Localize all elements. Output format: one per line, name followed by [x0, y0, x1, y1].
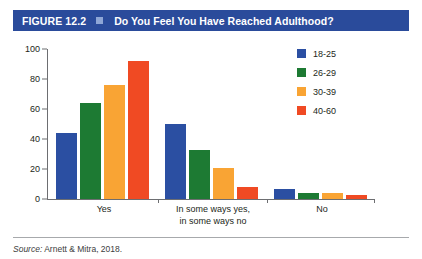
- x-axis-end-tick: [374, 199, 375, 203]
- bar-18-25-2: [165, 124, 186, 199]
- bar-18-25-3: [274, 189, 295, 200]
- bar-26-29-1: [80, 103, 101, 199]
- legend-swatch-icon: [297, 68, 306, 77]
- legend-label: 30-39: [313, 87, 336, 97]
- legend-swatch-icon: [297, 49, 306, 58]
- legend-item-26-29[interactable]: 26-29: [297, 63, 397, 82]
- legend-swatch-icon: [297, 87, 306, 96]
- y-axis-tick-label: 20: [14, 164, 40, 174]
- bar-30-39-2: [213, 168, 234, 200]
- figure-number: FIGURE 12.2: [22, 15, 86, 27]
- bar-30-39-3: [322, 193, 343, 199]
- bar-group: [165, 49, 261, 199]
- footer-divider: [13, 237, 409, 238]
- figure-title: Do You Feel You Have Reached Adulthood?: [114, 15, 334, 27]
- x-axis-group-tick: [158, 199, 159, 203]
- bar-26-29-2: [189, 150, 210, 200]
- y-axis-tick-label: 100: [14, 44, 40, 54]
- bar-40-60-3: [346, 195, 367, 200]
- y-axis-tick-labels: 020406080100: [14, 36, 40, 186]
- source-note: Source: Arnett & Mitra, 2018.: [13, 244, 122, 254]
- y-axis-tick-label: 60: [14, 104, 40, 114]
- figure-header-banner: FIGURE 12.2 Do You Feel You Have Reached…: [13, 10, 409, 31]
- legend-label: 18-25: [313, 49, 336, 59]
- y-axis-tick-label: 0: [14, 194, 40, 204]
- bar-group: [56, 49, 152, 199]
- legend-swatch-icon: [297, 106, 306, 115]
- bar-40-60-1: [128, 61, 149, 199]
- x-axis-category-label: No: [254, 204, 390, 216]
- legend-item-18-25[interactable]: 18-25: [297, 44, 397, 63]
- source-citation: Arnett & Mitra, 2018.: [42, 244, 122, 254]
- legend-label: 26-29: [313, 68, 336, 78]
- legend-item-30-39[interactable]: 30-39: [297, 82, 397, 101]
- source-label: Source:: [13, 244, 42, 254]
- legend-label: 40-60: [313, 106, 336, 116]
- legend-item-40-60[interactable]: 40-60: [297, 101, 397, 120]
- bar-40-60-2: [237, 187, 258, 199]
- chart-legend: 18-2526-2930-3940-60: [297, 44, 397, 120]
- x-axis-line: [47, 199, 375, 200]
- bar-26-29-3: [298, 193, 319, 199]
- y-axis-tick-label: 40: [14, 134, 40, 144]
- square-bullet-icon: [96, 17, 103, 24]
- y-axis-tick-label: 80: [14, 74, 40, 84]
- x-axis-group-tick: [267, 199, 268, 203]
- bar-30-39-1: [104, 85, 125, 199]
- figure-container: FIGURE 12.2 Do You Feel You Have Reached…: [0, 0, 422, 259]
- bar-18-25-1: [56, 133, 77, 199]
